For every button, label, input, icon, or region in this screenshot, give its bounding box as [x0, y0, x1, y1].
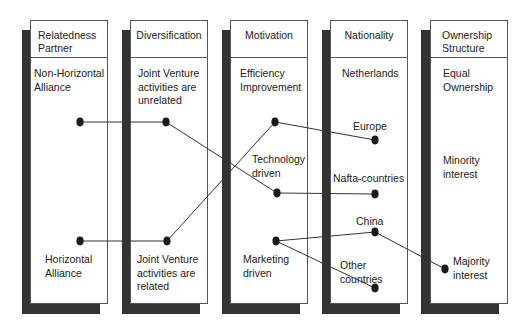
- node-dot-non-horizontal: [76, 118, 83, 127]
- connector-jv-unrelated-to-technology: [166, 122, 277, 193]
- node-dot-china: [371, 228, 378, 237]
- node-dot-jv-related: [163, 237, 170, 246]
- node-dot-technology: [273, 189, 280, 198]
- node-dot-jv-unrelated: [162, 118, 169, 127]
- node-dot-marketing: [272, 237, 279, 246]
- node-dot-efficiency: [271, 118, 278, 127]
- nodes: [76, 118, 448, 293]
- node-dot-horizontal: [76, 237, 83, 246]
- connector-technology-to-nafta: [277, 193, 375, 194]
- connector-efficiency-to-europe: [275, 122, 375, 140]
- node-dot-majority: [441, 265, 448, 274]
- node-dot-nafta: [371, 190, 378, 199]
- connector-marketing-to-other-countries: [276, 241, 375, 288]
- connector-marketing-to-china: [276, 232, 375, 241]
- node-dot-other-countries: [371, 284, 378, 293]
- edges: [80, 122, 445, 288]
- connector-china-to-majority: [375, 232, 445, 269]
- connections-layer: [0, 0, 528, 329]
- node-dot-europe: [371, 136, 378, 145]
